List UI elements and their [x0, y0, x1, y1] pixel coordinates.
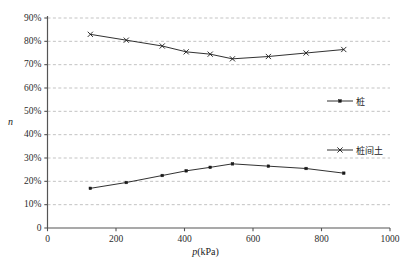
y-axis-title: n [8, 116, 13, 127]
y-tick-label-60%: 60% [2, 83, 42, 93]
x-tick-label-1000: 1000 [365, 234, 411, 244]
data-point-s1-0 [89, 187, 92, 190]
y-tick-label-40%: 40% [2, 129, 42, 139]
y-tick-label-0: 0 [2, 223, 42, 233]
data-point-s1-4 [209, 166, 212, 169]
legend-cross-marker-icon [327, 145, 353, 155]
x-tick-label-600: 600 [228, 234, 278, 244]
data-point-s1-2 [161, 174, 164, 177]
legend-square-marker-icon [327, 96, 353, 106]
chart-container: 010%20%30%40%50%60%70%80%90% 02004006008… [0, 0, 411, 266]
x-axis-title-unit: (kPa) [197, 246, 219, 257]
data-point-s1-5 [231, 163, 234, 166]
y-tick-label-20%: 20% [2, 176, 42, 186]
series-1 [89, 163, 345, 190]
y-tick-label-10%: 10% [2, 199, 42, 209]
y-tick-label-90%: 90% [2, 13, 42, 23]
y-tick-label-30%: 30% [2, 153, 42, 163]
x-tick-label-800: 800 [297, 234, 347, 244]
legend-item-1[interactable]: 桩 [327, 95, 365, 108]
y-tick-label-70%: 70% [2, 59, 42, 69]
x-tick-label-0: 0 [23, 234, 73, 244]
x-axis-title: p(kPa) [0, 246, 411, 257]
legend-item-2[interactable]: 桩间土 [327, 144, 383, 157]
x-tick-label-400: 400 [160, 234, 210, 244]
y-tick-label-80%: 80% [2, 36, 42, 46]
data-point-s1-7 [305, 167, 308, 170]
y-tick-label-50%: 50% [2, 106, 42, 116]
legend-label-1: 桩 [356, 95, 365, 108]
data-point-s1-3 [185, 170, 188, 173]
data-point-s1-1 [125, 181, 128, 184]
data-point-s1-8 [342, 172, 345, 175]
series-2 [88, 32, 347, 62]
data-point-s1-6 [267, 165, 270, 168]
legend-label-2: 桩间土 [356, 144, 383, 157]
chart-plot-area [0, 0, 411, 266]
x-tick-label-200: 200 [91, 234, 141, 244]
